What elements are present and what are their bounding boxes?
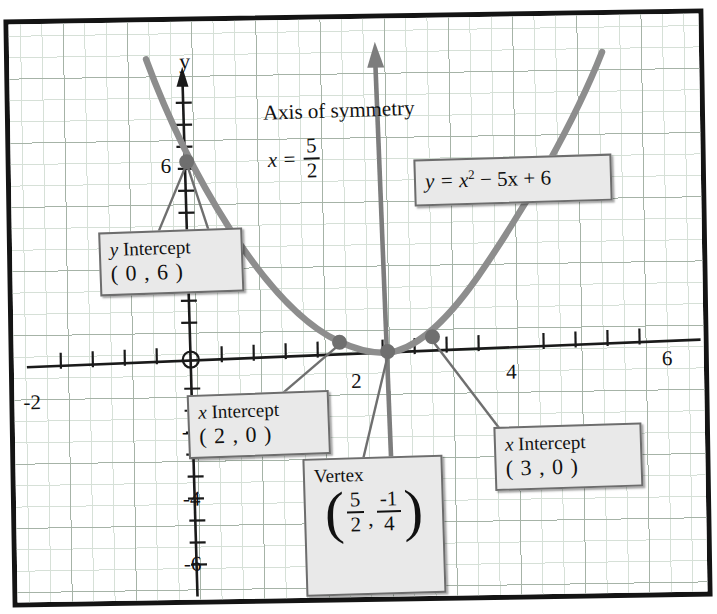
axis-of-symmetry-fraction: 5 2 (300, 135, 324, 182)
y-tick-label-neg6: -6 (184, 551, 202, 576)
x-intercept-2-title-text: Intercept (206, 399, 279, 423)
y-intercept-point: ( 0 , 6 ) (110, 258, 233, 287)
y-intercept-title-text: Intercept (118, 236, 191, 260)
x-intercept-3-callout: x Intercept ( 3 , 0 ) (493, 422, 643, 491)
axis-of-symmetry-arrowhead (367, 42, 384, 68)
x-tick-label-2: 2 (351, 369, 362, 394)
y-axis-label: y (179, 49, 190, 75)
vertex-coordinates: ( 5 2 , -1 4 ) (314, 487, 433, 536)
left-paren: ( (324, 492, 345, 534)
y-tick-label-6: 6 (161, 154, 172, 179)
scanned-graph-plate: y 6 -2 -4 -6 -2 2 4 6 Axis of symmetry x… (3, 9, 712, 608)
y-intercept-title: y Intercept (109, 235, 232, 261)
vertex-x-numerator: 5 (347, 489, 364, 510)
vertex-y-fraction: -1 4 (374, 488, 405, 535)
axis-of-symmetry-denominator: 2 (303, 160, 320, 182)
vertex-y-denominator: 4 (377, 513, 401, 535)
vertex-x-fraction: 5 2 (344, 489, 368, 536)
axis-of-symmetry-equation: x = 5 2 (267, 135, 324, 183)
vertex-x-denominator: 2 (347, 514, 364, 535)
x-tick-label-6: 6 (662, 346, 673, 371)
x-intercept-3-title-text: Intercept (513, 431, 586, 454)
x-intercept-2-point: ( 2 , 0 ) (199, 421, 320, 450)
y-tick-label-neg4: -4 (183, 486, 201, 511)
figure-canvas: y 6 -2 -4 -6 -2 2 4 6 Axis of symmetry x… (0, 0, 717, 614)
x-intercept-2-title: x Intercept (198, 397, 319, 423)
vertex-callout: Vertex ( 5 2 , -1 4 ) (302, 455, 446, 597)
equation-rest: − 5x + 6 (474, 165, 551, 191)
x-tick-label-4: 4 (506, 360, 517, 385)
x-intercept-3-title: x Intercept (505, 430, 632, 455)
x-intercept-3-point: ( 3 , 0 ) (505, 453, 632, 482)
x-tick-label-neg2: -2 (23, 390, 41, 415)
vertex-y-numerator: -1 (377, 488, 401, 510)
axis-of-symmetry-numerator: 5 (303, 135, 320, 157)
equation-text: y = x2 − 5x + 6 (425, 164, 602, 194)
y-intercept-callout: y Intercept ( 0 , 6 ) (98, 227, 244, 296)
axis-of-symmetry-equation-lead: x = (267, 146, 301, 172)
equation-lead: y = x (425, 168, 469, 193)
x-intercept-2-callout: x Intercept ( 2 , 0 ) (187, 390, 331, 459)
right-paren: ) (403, 490, 424, 532)
equation-callout: y = x2 − 5x + 6 (413, 154, 612, 206)
axis-of-symmetry-label: Axis of symmetry (263, 96, 415, 126)
